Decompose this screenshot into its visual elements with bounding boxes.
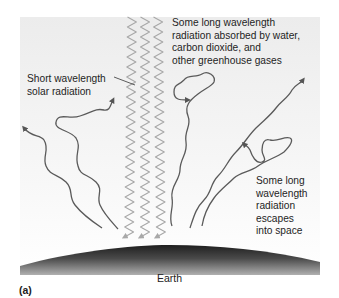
panel-label: (a) (19, 284, 32, 297)
short-wavelength-label: Short wavelength solar radiation (27, 73, 106, 98)
absorbed-radiation-label: Some long wavelength radiation absorbed … (172, 17, 300, 67)
earth-label: Earth (157, 272, 182, 285)
escaping-radiation-label: Some long wavelength radiation escapes i… (256, 175, 308, 238)
